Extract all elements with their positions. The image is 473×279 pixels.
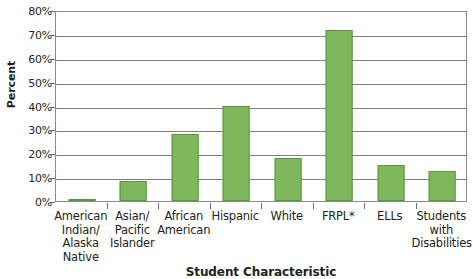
bar-slot — [159, 12, 211, 201]
y-axis-tick-label: 20% — [6, 149, 52, 160]
x-axis-tick — [261, 203, 262, 209]
bar[interactable] — [429, 171, 456, 201]
y-axis-tick-label: 80% — [6, 6, 52, 17]
x-axis-tick-label-line: with — [412, 224, 472, 238]
x-axis-tick-label-line: Native — [51, 251, 111, 265]
y-axis-tick-label: 50% — [6, 77, 52, 88]
x-axis-tick — [210, 203, 211, 209]
bar[interactable] — [274, 158, 301, 201]
bar-slot — [56, 12, 108, 201]
x-axis-tick-label: StudentswithDisabilities — [412, 210, 472, 251]
y-axis-tick — [49, 154, 55, 155]
y-axis-tick — [49, 11, 55, 12]
bar[interactable] — [120, 181, 147, 201]
plot-area — [55, 11, 467, 202]
y-axis-tick-label: 30% — [6, 125, 52, 136]
y-axis-tick — [49, 35, 55, 36]
y-axis-tick — [49, 107, 55, 108]
bar-slot — [262, 12, 314, 201]
y-axis-tick-label: 70% — [6, 29, 52, 40]
y-axis-tick — [49, 178, 55, 179]
y-axis-tick-label: 40% — [6, 101, 52, 112]
bar-slot — [108, 12, 160, 201]
bar[interactable] — [68, 199, 95, 201]
x-axis-tick-label-line: Students — [412, 210, 472, 224]
y-axis-tick-label: 10% — [6, 173, 52, 184]
x-axis-tick-labels: AmericanIndian/AlaskaNativeAsian/Pacific… — [55, 210, 467, 268]
x-axis-title: Student Characteristic — [55, 265, 467, 279]
y-axis-tick — [49, 130, 55, 131]
bar-slot — [211, 12, 263, 201]
bar-series — [56, 12, 466, 201]
x-axis-tick — [364, 203, 365, 209]
y-axis-tick — [49, 202, 55, 203]
y-axis-tick — [49, 59, 55, 60]
x-axis-tick-label-line: Islander — [103, 237, 163, 251]
x-axis-tick — [158, 203, 159, 209]
bar-slot — [365, 12, 417, 201]
bar-slot — [417, 12, 469, 201]
bar[interactable] — [377, 165, 404, 201]
bar[interactable] — [223, 106, 250, 202]
y-axis-tick — [49, 83, 55, 84]
bar-slot — [314, 12, 366, 201]
y-axis-tick-label: 60% — [6, 53, 52, 64]
y-axis-tick-label: 0% — [6, 197, 52, 208]
x-axis-tick-label-line: American — [154, 224, 214, 238]
x-axis-tick — [313, 203, 314, 209]
bar[interactable] — [171, 134, 198, 201]
bar[interactable] — [326, 30, 353, 201]
y-axis-tick-labels: 0%10%20%30%40%50%60%70%80% — [6, 4, 52, 206]
x-axis-tick-label-line: Disabilities — [412, 237, 472, 251]
